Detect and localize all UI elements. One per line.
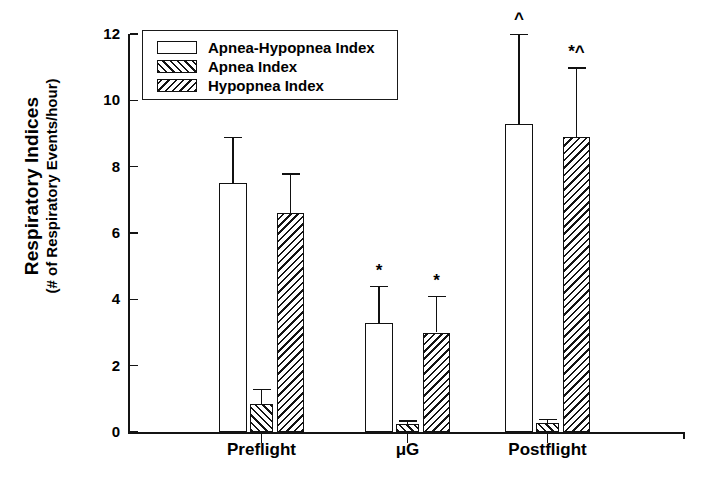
chart-legend: Apnea-Hypopnea Index Apnea Index Hypopne… (142, 30, 398, 100)
legend-swatch-hypopnea-index (157, 79, 197, 92)
y-tick-mark (130, 365, 138, 367)
error-bar-cap (253, 389, 271, 390)
error-bar-stem (436, 296, 437, 332)
legend-label-apnea-hypopnea-index: Apnea-Hypopnea Index (208, 40, 375, 55)
error-bar-stem (378, 286, 379, 322)
bar-preflight-series1 (250, 404, 273, 432)
significance-marker: * (376, 262, 383, 279)
error-bar-cap (568, 67, 586, 68)
x-axis-end-tick (683, 432, 685, 439)
y-tick-mark (130, 431, 138, 433)
bar-preflight-series2 (277, 213, 304, 432)
error-bar-cap (510, 34, 528, 35)
bar-preflight-series0 (219, 183, 247, 432)
significance-marker: *^ (568, 43, 585, 60)
legend-item: Hypopnea Index (157, 76, 397, 94)
error-bar-stem (261, 389, 262, 404)
error-bar-stem (576, 67, 577, 137)
respiratory-indices-chart: Respiratory Indices (# of Respiratory Ev… (0, 0, 718, 489)
bar-g-series1 (396, 424, 419, 432)
bar-postflight-series2 (563, 137, 590, 432)
error-bar-stem (518, 34, 519, 124)
legend-swatch-apnea-index (157, 60, 197, 73)
significance-marker: ^ (514, 10, 524, 27)
legend-item: Apnea Index (157, 57, 397, 75)
legend-label-hypopnea-index: Hypopnea Index (208, 78, 324, 93)
bar-postflight-series1 (536, 423, 559, 432)
error-bar-cap (370, 286, 388, 287)
x-axis-category-label: Preflight (227, 440, 296, 460)
error-bar-cap (282, 173, 300, 174)
legend-item: Apnea-Hypopnea Index (157, 38, 397, 56)
bar-g-series0 (365, 323, 393, 432)
x-axis-category-label: μG (396, 440, 420, 460)
y-tick-mark (130, 33, 138, 35)
legend-swatch-apnea-hypopnea-index (157, 41, 197, 54)
error-bar-cap (539, 419, 557, 420)
error-bar-cap (428, 296, 446, 297)
y-tick-mark (130, 166, 138, 168)
error-bar-cap (399, 420, 417, 421)
y-tick-mark (130, 100, 138, 102)
error-bar-cap (224, 137, 242, 138)
error-bar-stem (232, 137, 233, 183)
y-tick-mark (130, 299, 138, 301)
bar-postflight-series0 (505, 124, 533, 432)
y-tick-mark (130, 232, 138, 234)
x-axis-category-label: Postflight (508, 440, 586, 460)
legend-label-apnea-index: Apnea Index (208, 59, 297, 74)
bar-g-series2 (423, 333, 450, 433)
significance-marker: * (433, 272, 440, 289)
error-bar-stem (290, 173, 291, 213)
